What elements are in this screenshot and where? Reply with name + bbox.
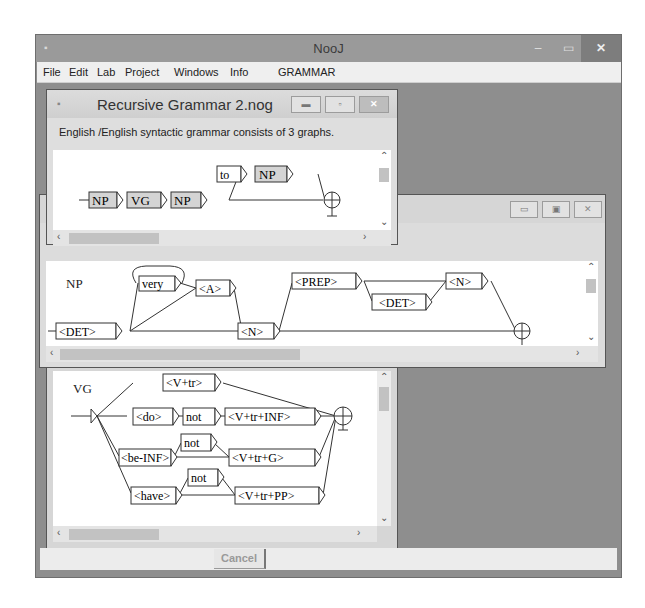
- vg-node[interactable]: <V+tr+PP>: [235, 487, 325, 504]
- np-node[interactable]: <PREP>: [292, 273, 362, 289]
- grammar-node[interactable]: NP: [171, 192, 207, 208]
- np-vertical-scrollbar[interactable]: ⌃ ⌄: [584, 261, 598, 346]
- svg-text:<have>: <have>: [134, 489, 170, 503]
- vg-node[interactable]: <V+tr+INF>: [225, 408, 321, 425]
- svg-text:not: not: [186, 410, 202, 424]
- vg-horizontal-scrollbar[interactable]: ‹ ›: [53, 526, 377, 542]
- grammar-vscroll-thumb[interactable]: [379, 168, 389, 182]
- svg-text:not: not: [191, 471, 207, 485]
- menu-project[interactable]: Project: [125, 66, 159, 78]
- vg-graph-label: VG: [73, 381, 92, 396]
- svg-text:<V+tr+INF>: <V+tr+INF>: [228, 410, 291, 424]
- np-node[interactable]: <N>: [238, 323, 280, 339]
- scroll-right-icon[interactable]: ›: [576, 347, 579, 358]
- grammar-node[interactable]: to: [217, 166, 247, 182]
- vg-node[interactable]: not: [188, 469, 224, 486]
- grammar-graph: NP VG NP to: [53, 150, 377, 230]
- vg-node[interactable]: not: [183, 408, 221, 425]
- vg-vertical-scrollbar[interactable]: ⌃ ⌄: [377, 371, 391, 526]
- vg-node[interactable]: <V+tr+G>: [229, 449, 321, 466]
- cancel-button[interactable]: Cancel: [214, 549, 266, 569]
- grammar-canvas[interactable]: NP VG NP to: [53, 150, 377, 230]
- grammar-window: ▪ Recursive Grammar 2.nog ▬ ▫ ✕ English …: [46, 89, 398, 245]
- scroll-up-icon[interactable]: ⌃: [380, 371, 388, 382]
- maximize-button[interactable]: ▭: [553, 35, 583, 62]
- svg-text:<DET>: <DET>: [59, 325, 96, 339]
- scroll-right-icon[interactable]: ›: [357, 527, 360, 538]
- svg-text:to: to: [220, 168, 229, 182]
- vg-node[interactable]: <V+tr>: [163, 374, 221, 391]
- np-hscroll-thumb[interactable]: [60, 349, 300, 360]
- np-maximize-button[interactable]: ▣: [542, 201, 570, 218]
- svg-text:<N>: <N>: [241, 325, 263, 339]
- svg-text:<DET>: <DET>: [379, 296, 416, 310]
- menu-lab[interactable]: Lab: [97, 66, 115, 78]
- vg-node[interactable]: <have>: [131, 487, 182, 504]
- scroll-up-icon[interactable]: ⌃: [587, 261, 595, 272]
- svg-text:NP: NP: [174, 193, 191, 208]
- np-canvas[interactable]: NP <DET> very <A>: [46, 261, 584, 346]
- menu-file[interactable]: File: [43, 66, 61, 78]
- np-node[interactable]: <A>: [196, 280, 236, 296]
- vg-canvas[interactable]: VG <V+tr> <do> not: [53, 371, 377, 526]
- np-node[interactable]: <DET>: [372, 294, 432, 310]
- svg-text:<V+tr+G>: <V+tr+G>: [232, 451, 284, 465]
- svg-text:<N>: <N>: [449, 275, 471, 289]
- grammar-maximize-button[interactable]: ▫: [325, 96, 355, 113]
- svg-text:<A>: <A>: [199, 282, 221, 296]
- menu-windows[interactable]: Windows: [174, 66, 219, 78]
- vg-vscroll-thumb[interactable]: [379, 387, 389, 411]
- minimize-button[interactable]: –: [523, 35, 553, 62]
- vg-graph-window: VG <V+tr> <do> not: [46, 355, 398, 549]
- grammar-vertical-scrollbar[interactable]: ⌃ ⌄: [377, 150, 391, 230]
- grammar-hscroll-thumb[interactable]: [69, 233, 159, 244]
- svg-text:<PREP>: <PREP>: [295, 275, 337, 289]
- scroll-down-icon[interactable]: ⌄: [587, 331, 595, 342]
- vg-hscroll-thumb[interactable]: [69, 529, 159, 540]
- menubar: File Edit Lab Project Windows Info GRAMM…: [37, 62, 621, 83]
- svg-text:<be-INF>: <be-INF>: [121, 451, 169, 465]
- scroll-up-icon[interactable]: ⌃: [380, 150, 388, 161]
- app-titlebar: ▪ NooJ – ▭ ✕: [36, 35, 621, 62]
- menu-grammar[interactable]: GRAMMAR: [278, 66, 335, 78]
- vg-node[interactable]: not: [181, 434, 217, 451]
- nooj-app-window: ▪ NooJ – ▭ ✕ File Edit Lab Project Windo…: [35, 34, 622, 578]
- grammar-info-text: English /English syntactic grammar consi…: [59, 126, 334, 138]
- np-close-button[interactable]: ✕: [574, 201, 602, 218]
- svg-text:not: not: [184, 436, 200, 450]
- grammar-window-title: Recursive Grammar 2.nog: [97, 96, 273, 113]
- scroll-down-icon[interactable]: ⌄: [380, 512, 388, 523]
- close-button[interactable]: ✕: [581, 35, 621, 62]
- svg-text:VG: VG: [131, 193, 150, 208]
- grammar-minimize-button[interactable]: ▬: [291, 96, 321, 113]
- grammar-node[interactable]: NP: [89, 192, 123, 208]
- svg-text:NP: NP: [259, 167, 276, 182]
- np-graph: NP <DET> very <A>: [46, 261, 584, 346]
- grammar-node[interactable]: NP: [255, 166, 293, 182]
- scroll-left-icon[interactable]: ‹: [57, 527, 60, 538]
- menu-info[interactable]: Info: [230, 66, 248, 78]
- svg-text:very: very: [142, 277, 163, 291]
- scroll-left-icon[interactable]: ‹: [57, 231, 60, 242]
- scroll-left-icon[interactable]: ‹: [50, 347, 53, 358]
- svg-text:<do>: <do>: [136, 410, 162, 424]
- svg-text:<V+tr>: <V+tr>: [166, 376, 203, 390]
- status-bar: Cancel: [40, 548, 617, 570]
- np-node[interactable]: <DET>: [56, 323, 122, 339]
- grammar-window-titlebar: ▪ Recursive Grammar 2.nog ▬ ▫ ✕: [47, 90, 397, 118]
- svg-text:<V+tr+PP>: <V+tr+PP>: [238, 489, 295, 503]
- vg-node[interactable]: <do>: [133, 408, 179, 425]
- np-horizontal-scrollbar[interactable]: ‹ ›: [46, 346, 598, 362]
- grammar-node[interactable]: VG: [127, 192, 167, 208]
- np-minimize-button[interactable]: ▭: [510, 201, 538, 218]
- scroll-right-icon[interactable]: ›: [363, 231, 366, 242]
- vg-node[interactable]: <be-INF>: [119, 449, 177, 466]
- np-node[interactable]: <N>: [446, 273, 488, 289]
- window-icon: ▪: [57, 98, 61, 109]
- grammar-horizontal-scrollbar[interactable]: ‹ ›: [53, 230, 391, 246]
- np-node[interactable]: very: [139, 276, 181, 291]
- np-vscroll-thumb[interactable]: [586, 279, 596, 293]
- grammar-close-button[interactable]: ✕: [359, 96, 389, 113]
- scroll-down-icon[interactable]: ⌄: [380, 216, 388, 227]
- menu-edit[interactable]: Edit: [69, 66, 88, 78]
